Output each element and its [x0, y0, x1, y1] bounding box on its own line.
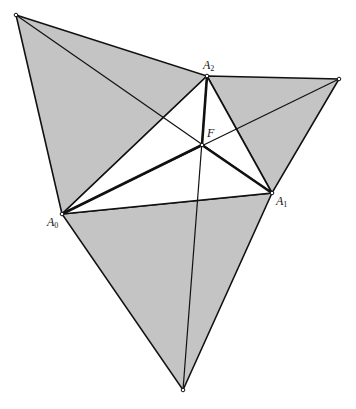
vertex-dot: [60, 212, 64, 216]
equilateral-triangle-bottom: [62, 193, 272, 390]
fermat-diagram: [0, 0, 356, 409]
fermat-point-dot: [200, 143, 204, 147]
label-F: F: [207, 127, 214, 139]
vertex-dot: [270, 191, 274, 195]
vertex-dot: [205, 74, 209, 78]
vertex-dot: [14, 13, 18, 17]
label-A2: A2: [203, 59, 214, 73]
label-A0: A0: [47, 216, 58, 230]
vertex-dot: [181, 388, 185, 392]
vertex-dot: [337, 77, 341, 81]
label-A1: A1: [276, 195, 287, 209]
